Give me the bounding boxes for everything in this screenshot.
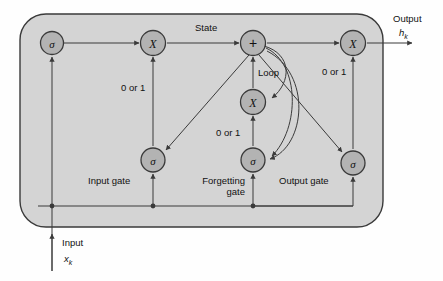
node-input-sigma[interactable]: σ bbox=[41, 32, 64, 55]
lstm-diagram-canvas: σ X + X X σ σ bbox=[0, 0, 443, 281]
input-variable-subscript: k bbox=[69, 259, 73, 266]
input-variable-label: xk bbox=[64, 254, 72, 267]
node-output-multiply[interactable]: X bbox=[341, 31, 366, 56]
svg-text:X: X bbox=[348, 37, 357, 51]
node-forget-gate-sigma[interactable]: σ bbox=[241, 148, 265, 172]
svg-text:σ: σ bbox=[150, 155, 156, 167]
junction-dot-input bbox=[50, 204, 55, 209]
loop-label: Loop bbox=[258, 68, 279, 79]
node-state-adder[interactable]: + bbox=[241, 31, 266, 56]
input-title-label: Input bbox=[62, 238, 83, 249]
output-variable-subscript: k bbox=[404, 33, 408, 40]
output-variable-label: hk bbox=[399, 28, 408, 41]
forgetting-gate-label-line1: Forgetting bbox=[202, 175, 245, 186]
node-loop-multiply[interactable]: X bbox=[241, 90, 266, 115]
node-input-multiply[interactable]: X bbox=[141, 31, 166, 56]
svg-text:σ: σ bbox=[350, 158, 356, 170]
forgetting-gate-label-line2: gate bbox=[227, 186, 246, 197]
zero-or-one-forget-label: 0 or 1 bbox=[216, 128, 240, 139]
node-output-gate-sigma[interactable]: σ bbox=[341, 151, 365, 175]
state-label: State bbox=[195, 23, 217, 34]
svg-text:X: X bbox=[148, 37, 157, 51]
svg-text:+: + bbox=[249, 35, 257, 51]
svg-text:X: X bbox=[248, 96, 257, 110]
svg-text:σ: σ bbox=[250, 155, 256, 167]
forgetting-gate-label: Forgetting gate bbox=[185, 176, 245, 197]
junction-dot-inputgate bbox=[151, 204, 156, 209]
output-gate-label: Output gate bbox=[279, 176, 329, 187]
svg-text:σ: σ bbox=[49, 38, 55, 50]
junction-dot-forgetgate bbox=[251, 204, 256, 209]
node-input-gate-sigma[interactable]: σ bbox=[141, 148, 165, 172]
zero-or-one-output-label: 0 or 1 bbox=[322, 67, 346, 78]
input-gate-label: Input gate bbox=[88, 176, 130, 187]
output-title-label: Output bbox=[393, 14, 422, 25]
zero-or-one-input-label: 0 or 1 bbox=[121, 83, 145, 94]
